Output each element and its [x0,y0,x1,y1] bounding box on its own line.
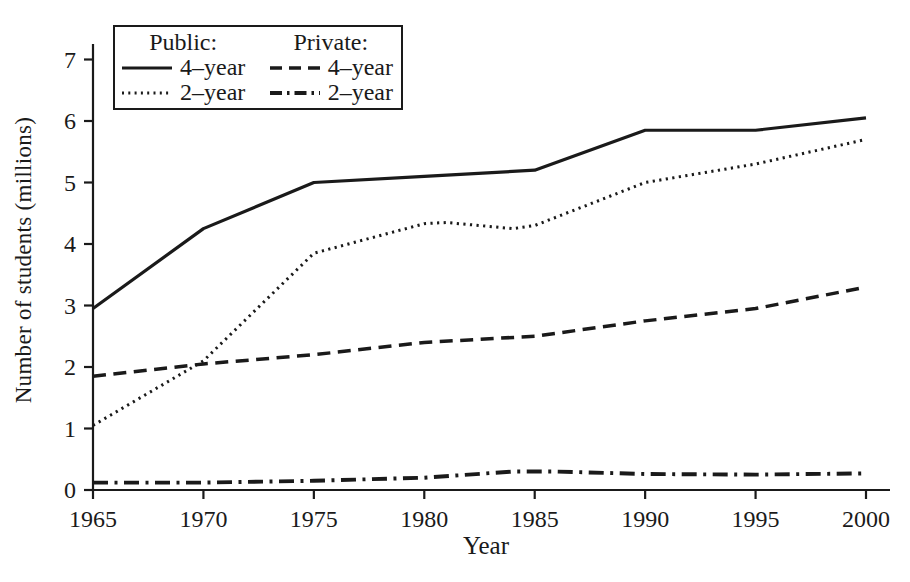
legend: Public: 4–year 2–year Private: 4–year 2–… [113,25,403,110]
y-tick-label: 6 [64,108,76,134]
y-tick-label: 0 [64,477,76,503]
x-tick-label: 1990 [621,506,669,532]
y-tick-label: 4 [64,231,76,257]
x-tick-label: 1965 [69,506,117,532]
x-tick-label: 1985 [511,506,559,532]
x-axis-title: Year [463,532,509,560]
series-line-public-2-year [93,139,866,425]
x-tick-label: 1995 [732,506,780,532]
series-line-private-4-year [93,287,866,376]
legend-label-private-4year: 4–year [328,55,393,80]
y-tick-label: 3 [64,293,76,319]
dashdot-line-icon [269,88,321,98]
x-tick-label: 2000 [842,506,890,532]
legend-group-public: Public: 4–year 2–year [121,30,245,104]
legend-label-public-4year: 4–year [180,55,245,80]
enrollment-line-chart-figure: 0123456719651970197519801985199019952000… [0,0,910,582]
y-axis-title: Number of students (millions) [11,117,37,404]
x-tick-label: 1975 [290,506,338,532]
y-tick-label: 1 [64,416,76,442]
legend-group-private: Private: 4–year 2–year [269,30,393,104]
series-line-public-4-year [93,118,866,309]
legend-label-private-2year: 2–year [328,80,393,105]
y-tick-label: 5 [64,170,76,196]
dotted-line-icon [121,88,173,98]
x-tick-label: 1970 [179,506,227,532]
legend-label-public-2year: 2–year [180,80,245,105]
legend-header-private: Private: [269,30,393,55]
x-tick-label: 1980 [400,506,448,532]
legend-header-public: Public: [121,30,245,55]
solid-line-icon [121,63,173,73]
y-tick-label: 7 [64,47,76,73]
y-tick-label: 2 [64,354,76,380]
series-line-private-2-year [93,472,866,483]
dashed-line-icon [269,63,321,73]
